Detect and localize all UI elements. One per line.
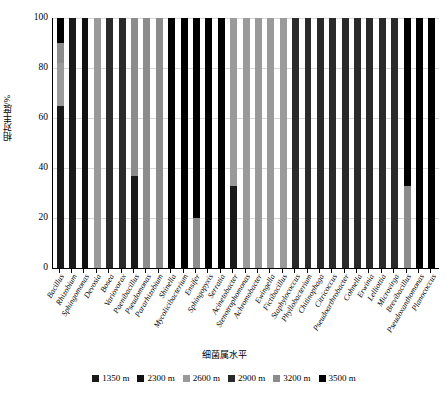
bar-stack [119, 18, 126, 268]
bar-stack [404, 18, 411, 268]
bar-column[interactable] [265, 18, 277, 268]
legend-label: 3200 m [283, 374, 310, 383]
bar-segment [243, 18, 250, 268]
bar-column[interactable] [240, 18, 252, 268]
x-axis-category-labels: BacillusRhizobiumSphingomonasDevosiaBose… [52, 273, 438, 345]
legend-swatch-icon [183, 375, 190, 382]
legend-item[interactable]: 2600 m [183, 374, 220, 383]
bar-stack [94, 18, 101, 268]
bar-column[interactable] [389, 18, 401, 268]
bar-stack [243, 18, 250, 268]
bar-stack [143, 18, 150, 268]
legend-item[interactable]: 3500 m [319, 374, 356, 383]
bar-segment [168, 18, 175, 268]
bar-column[interactable] [314, 18, 326, 268]
bar-segment [181, 18, 188, 268]
legend-item[interactable]: 1350 m [92, 374, 129, 383]
bar-segment [428, 18, 435, 268]
bar-column[interactable] [215, 18, 227, 268]
bar-stack [292, 18, 299, 268]
bar-segment [280, 18, 287, 268]
bar-column[interactable] [252, 18, 264, 268]
bar-segment [317, 18, 324, 268]
bar-column[interactable] [128, 18, 140, 268]
bar-column[interactable] [426, 18, 438, 268]
bar-stack [317, 18, 324, 268]
bar-column[interactable] [302, 18, 314, 268]
bar-stack [342, 18, 349, 268]
bar-segment [131, 176, 138, 269]
legend-item[interactable]: 2900 m [228, 374, 265, 383]
bar-column[interactable] [104, 18, 116, 268]
bar-column[interactable] [190, 18, 202, 268]
legend-item[interactable]: 3200 m [273, 374, 310, 383]
legend-label: 3500 m [329, 374, 356, 383]
bar-segment [404, 18, 411, 186]
bar-segment [57, 106, 64, 269]
bar-column[interactable] [166, 18, 178, 268]
bar-column[interactable] [153, 18, 165, 268]
bar-column[interactable] [91, 18, 103, 268]
bar-segment [57, 63, 64, 106]
legend-swatch-icon [228, 375, 235, 382]
bar-column[interactable] [116, 18, 128, 268]
bar-column[interactable] [413, 18, 425, 268]
bar-segment [119, 18, 126, 268]
bar-stack [205, 18, 212, 268]
bar-column[interactable] [178, 18, 190, 268]
bar-stack [428, 18, 435, 268]
bar-column[interactable] [401, 18, 413, 268]
legend-label: 2300 m [147, 374, 174, 383]
bar-stack [193, 18, 200, 268]
bar-stack [168, 18, 175, 268]
bar-column[interactable] [203, 18, 215, 268]
bar-segment [69, 18, 76, 268]
bar-segment [305, 18, 312, 268]
legend-label: 1350 m [102, 374, 129, 383]
bar-column[interactable] [289, 18, 301, 268]
bar-segment [57, 18, 64, 43]
bar-stack [230, 18, 237, 268]
bar-column[interactable] [66, 18, 78, 268]
bar-segment [230, 18, 237, 186]
bar-segment [416, 18, 423, 268]
bar-segment [218, 18, 225, 268]
y-axis-ticks: 020406080100 [4, 0, 48, 290]
bar-segment [404, 186, 411, 269]
bar-segment [354, 18, 361, 268]
bar-segment [193, 218, 200, 268]
bar-stack [131, 18, 138, 268]
bar-column[interactable] [79, 18, 91, 268]
bar-column[interactable] [376, 18, 388, 268]
bar-stack [82, 18, 89, 268]
bar-segment [379, 18, 386, 268]
bar-column[interactable] [351, 18, 363, 268]
bar-column[interactable] [227, 18, 239, 268]
y-tick-label: 60 [8, 113, 48, 123]
bar-segment [292, 18, 299, 268]
bar-column[interactable] [277, 18, 289, 268]
bar-column[interactable] [339, 18, 351, 268]
bar-column[interactable] [141, 18, 153, 268]
y-tick-label: 80 [8, 63, 48, 73]
bar-segment [57, 43, 64, 63]
plot-area [52, 18, 439, 269]
legend-swatch-icon [92, 375, 99, 382]
legend-swatch-icon [273, 375, 280, 382]
bar-stack [218, 18, 225, 268]
bar-segment [82, 18, 89, 268]
bar-column[interactable] [54, 18, 66, 268]
bar-stack [329, 18, 336, 268]
bar-column[interactable] [327, 18, 339, 268]
bar-segment [255, 18, 262, 268]
bars-layer [53, 18, 439, 268]
bar-stack [181, 18, 188, 268]
bar-stack [391, 18, 398, 268]
y-tick-label: 20 [8, 213, 48, 223]
y-tick-label: 40 [8, 163, 48, 173]
x-label-cell: Planococcus [425, 273, 437, 345]
legend-item[interactable]: 2300 m [137, 374, 174, 383]
bar-column[interactable] [364, 18, 376, 268]
bar-segment [193, 18, 200, 218]
bar-segment [230, 186, 237, 269]
